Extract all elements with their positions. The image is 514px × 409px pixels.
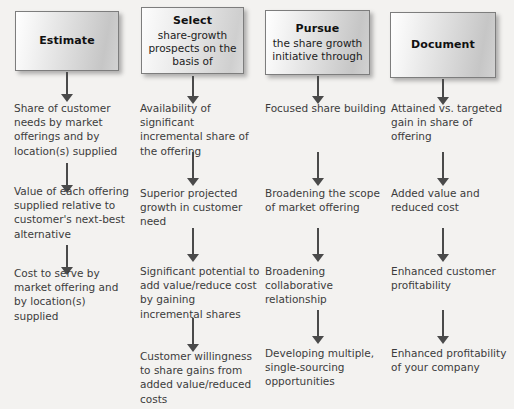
header-box-estimate: Estimate (15, 11, 119, 71)
diagram-column-estimate: Estimate Share of customer needs by mark… (0, 0, 128, 409)
header-title-select: Select (173, 14, 212, 28)
header-title-estimate: Estimate (39, 34, 95, 48)
diagram-column-pursue: Pursue the share growth initiative throu… (255, 0, 383, 409)
list-item: Broadening the scope of market offering (265, 186, 393, 214)
header-subtitle-select: share-growth prospects on the basis of (146, 29, 239, 68)
arrow-down-icon (436, 310, 450, 344)
header-box-document: Document (390, 12, 496, 78)
list-item: Enhanced profitability of your company (391, 346, 514, 374)
arrow-down-icon (60, 72, 74, 102)
arrow-down-icon (436, 228, 450, 262)
list-item: Significant potential to add value/reduc… (140, 264, 260, 321)
list-item: Customer willingness to share gains from… (140, 349, 260, 406)
list-item: Cost to serve by market offering and by … (14, 266, 130, 323)
list-item: Enhanced customer profitability (391, 264, 514, 292)
header-title-document: Document (411, 38, 475, 52)
header-title-pursue: Pursue (296, 22, 340, 36)
diagram-column-document: Document Attained vs. targeted gain in s… (383, 0, 514, 409)
list-item: Value of each offering supplied relative… (14, 184, 130, 241)
list-item: Superior projected growth in customer ne… (140, 186, 260, 229)
header-box-pursue: Pursue the share growth initiative throu… (265, 10, 370, 75)
list-item: Share of customer needs by market offeri… (14, 101, 130, 158)
diagram-column-select: Select share-growth prospects on the bas… (128, 0, 255, 409)
arrow-down-icon (436, 152, 450, 186)
arrow-down-icon (311, 310, 325, 344)
arrow-down-icon (186, 76, 200, 104)
list-item: Availability of significant incremental … (140, 101, 260, 158)
arrow-down-icon (311, 228, 325, 262)
list-item: Focused share building (265, 101, 393, 115)
arrow-down-icon (311, 152, 325, 186)
arrow-down-icon (186, 318, 200, 352)
list-item: Broadening collaborative relationship (265, 264, 393, 307)
list-item: Developing multiple, single-sourcing opp… (265, 346, 393, 389)
header-box-select: Select share-growth prospects on the bas… (141, 7, 244, 74)
arrow-down-icon (311, 76, 325, 104)
share-growth-process-diagram: Estimate Share of customer needs by mark… (0, 0, 514, 409)
list-item: Added value and reduced cost (391, 186, 514, 214)
arrow-down-icon (186, 152, 200, 186)
arrow-down-icon (186, 228, 200, 262)
header-subtitle-pursue: the share growth initiative through (270, 37, 365, 63)
list-item: Attained vs. targeted gain in share of o… (391, 101, 514, 144)
